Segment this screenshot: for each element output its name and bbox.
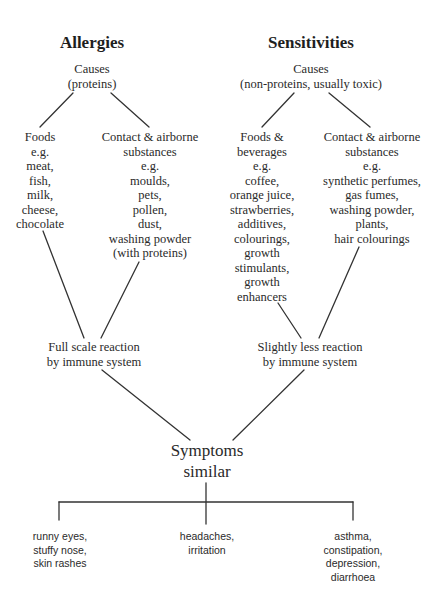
sensitivities-foods-line: Foods & (230, 130, 295, 145)
allergies-contact-line: substances (102, 145, 199, 160)
symptom-item: asthma, (324, 530, 383, 544)
allergies-causes: Causes (proteins) (68, 62, 117, 91)
allergies-contact-line: (with proteins) (102, 246, 199, 261)
sensitivities-contact-line: washing powder, (323, 203, 421, 218)
connector-sensitivities-contact-reaction (319, 247, 359, 338)
allergies-foods-line: Foods (16, 130, 64, 145)
sensitivities-contact: Contact & airborne substances e.g. synth… (323, 130, 421, 246)
allergies-foods-line: chocolate (16, 217, 64, 232)
sensitivities-causes: Causes (non-proteins, usually toxic) (240, 62, 382, 91)
allergies-foods-line: e.g. (16, 145, 64, 160)
allergies-foods-line: fish, (16, 174, 64, 189)
allergies-contact-line: dust, (102, 217, 199, 232)
sensitivities-foods-line: e.g. (230, 159, 295, 174)
sensitivities-reaction-line: by immune system (258, 355, 363, 370)
sensitivities-foods-line: strawberries, (230, 203, 295, 218)
sensitivities-title: Sensitivities (268, 33, 354, 53)
sensitivities-reaction-line: Slightly less reaction (258, 340, 363, 355)
allergies-foods-line: milk, (16, 188, 64, 203)
allergies-title: Allergies (60, 33, 124, 53)
sensitivities-foods: Foods & beverages e.g. coffee, orange ju… (230, 130, 295, 304)
symptom-item: irritation (180, 544, 234, 558)
allergies-reaction-line: by immune system (47, 355, 141, 370)
connector-allergies-contact-reaction (101, 262, 139, 338)
sensitivities-foods-line: beverages (230, 145, 295, 160)
allergies-foods: Foods e.g. meat, fish, milk, cheese, cho… (16, 130, 64, 232)
allergies-reaction: Full scale reaction by immune system (47, 340, 141, 369)
allergies-causes-line: (proteins) (68, 77, 117, 92)
symptom-item: depression, (324, 557, 383, 571)
symptoms-title-line: similar (171, 461, 244, 482)
connector-allergies-reaction-symptoms (102, 370, 190, 440)
symptom-group-center: headaches, irritation (180, 530, 234, 557)
sensitivities-reaction: Slightly less reaction by immune system (258, 340, 363, 369)
sensitivities-foods-line: enhancers (230, 290, 295, 305)
symptom-item: headaches, (180, 530, 234, 544)
allergies-contact: Contact & airborne substances e.g. mould… (102, 130, 199, 261)
sensitivities-foods-line: colourings, (230, 232, 295, 247)
sensitivities-contact-line: plants, (323, 217, 421, 232)
allergies-contact-line: washing powder (102, 232, 199, 247)
allergies-contact-line: pets, (102, 188, 199, 203)
connector-sensitivities-causes-foods (262, 93, 294, 127)
sensitivities-contact-line: synthetic perfumes, (323, 174, 421, 189)
sensitivities-contact-line: hair colourings (323, 232, 421, 247)
symptom-item: skin rashes (33, 557, 87, 571)
symptom-item: runny eyes, (33, 530, 87, 544)
allergies-contact-line: Contact & airborne (102, 130, 199, 145)
symptom-group-left: runny eyes, stuffy nose, skin rashes (33, 530, 87, 571)
connector-sensitivities-causes-contact (329, 93, 370, 127)
sensitivities-contact-line: substances (323, 145, 421, 160)
sensitivities-causes-line: Causes (240, 62, 382, 77)
sensitivities-contact-line: gas fumes, (323, 188, 421, 203)
symptom-item: diarrhoea (324, 571, 383, 585)
symptom-item: constipation, (324, 544, 383, 558)
connector-sensitivities-foods-reaction (278, 303, 301, 338)
allergies-contact-line: pollen, (102, 203, 199, 218)
sensitivities-foods-line: growth (230, 275, 295, 290)
sensitivities-foods-line: coffee, (230, 174, 295, 189)
sensitivities-foods-line: orange juice, (230, 188, 295, 203)
connector-allergies-causes-foods (40, 93, 73, 127)
allergies-contact-line: moulds, (102, 174, 199, 189)
connector-lines (0, 0, 438, 607)
allergies-foods-line: cheese, (16, 203, 64, 218)
sensitivities-contact-line: Contact & airborne (323, 130, 421, 145)
symptom-group-right: asthma, constipation, depression, diarrh… (324, 530, 383, 584)
allergies-reaction-line: Full scale reaction (47, 340, 141, 355)
sensitivities-causes-line: (non-proteins, usually toxic) (240, 77, 382, 92)
allergies-contact-line: e.g. (102, 159, 199, 174)
sensitivities-contact-line: e.g. (323, 159, 421, 174)
connector-allergies-causes-contact (111, 93, 149, 127)
connector-sensitivities-reaction-symptoms (233, 370, 304, 440)
symptoms-title-line: Symptoms (171, 440, 244, 461)
sensitivities-foods-line: growth (230, 246, 295, 261)
sensitivities-foods-line: additives, (230, 217, 295, 232)
sensitivities-foods-line: stimulants, (230, 261, 295, 276)
allergies-causes-line: Causes (68, 62, 117, 77)
symptoms-title: Symptoms similar (171, 440, 244, 482)
allergies-foods-line: meat, (16, 159, 64, 174)
symptom-item: stuffy nose, (33, 544, 87, 558)
connector-allergies-foods-reaction (43, 231, 84, 338)
